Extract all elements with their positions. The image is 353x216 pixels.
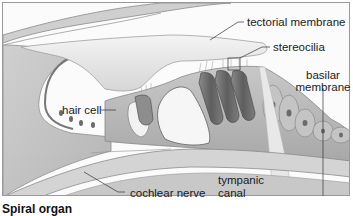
label-cochlear-nerve: cochlear nerve [130, 187, 205, 199]
figure-caption: Spiral organ [2, 202, 72, 216]
label-tympanic-canal-line2: canal [218, 187, 246, 199]
label-basilar-membrane-line2: membrane [294, 81, 352, 93]
label-stereocilia: stereocilia [273, 41, 325, 53]
label-tectorial-membrane: tectorial membrane [247, 16, 345, 28]
spiral-organ-figure: tectorial membrane stereocilia basilar m… [0, 0, 353, 216]
leader-lines [0, 0, 353, 216]
label-hair-cell: hair cell [62, 104, 102, 116]
label-basilar-membrane-line1: basilar [294, 69, 352, 81]
label-tympanic-canal-line1: tympanic [218, 174, 264, 186]
